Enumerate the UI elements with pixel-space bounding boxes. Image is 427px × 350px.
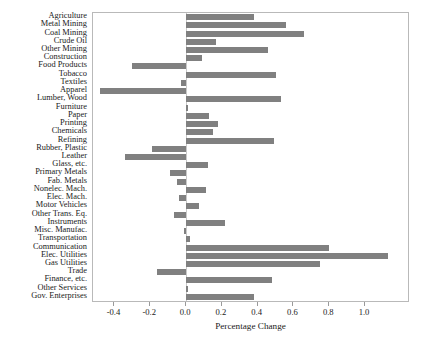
bar [186,236,190,242]
x-axis-tick [257,302,258,306]
bar [186,162,207,168]
bar [186,113,209,119]
x-axis-tick [185,302,186,306]
percentage-change-bar-chart: AgricultureMetal MiningCoal MiningCrude … [0,0,427,350]
bar [186,220,225,226]
category-label: Gov. Enterprises [31,291,87,301]
bar [186,203,199,209]
bar [186,31,304,37]
bar [186,138,274,144]
bar [186,72,275,78]
x-axis-tick [292,302,293,306]
x-axis-tick [364,302,365,306]
bar [132,63,186,69]
x-axis-tick [149,302,150,306]
bar [179,195,186,201]
bar [186,245,329,251]
bar [100,88,186,94]
bar [186,129,213,135]
plot-area [92,12,409,302]
bar [157,269,186,275]
x-axis-tick-label: 0.8 [323,307,334,317]
bar [186,47,268,53]
x-axis-tick-label: 1.0 [359,307,370,317]
x-axis-tick-label: -0.4 [107,307,121,317]
bar [186,22,286,28]
bar-series [93,13,408,301]
bar [177,179,186,185]
bar [186,96,281,102]
bar [186,121,218,127]
x-axis-tick-label: 0.4 [251,307,262,317]
x-axis-tick-label: 0.0 [180,307,191,317]
x-axis-tick [221,302,222,306]
bar [174,212,187,218]
bar [184,228,186,234]
bar [125,154,186,160]
x-axis-tick-label: 0.2 [215,307,226,317]
x-axis-tick [113,302,114,306]
bar [186,55,202,61]
x-axis-tick-label: -0.2 [142,307,156,317]
bar [186,14,254,20]
bar [186,105,188,111]
bar [186,187,206,193]
bar [186,261,320,267]
bar [186,277,272,283]
bar [186,253,388,259]
bar [181,80,186,86]
x-axis-title: Percentage Change [92,321,409,331]
category-axis-labels: AgricultureMetal MiningCoal MiningCrude … [0,12,90,302]
bar [170,170,186,176]
bar [186,294,254,300]
bar [152,146,186,152]
bar [186,39,216,45]
x-axis-tick-label: 0.6 [287,307,298,317]
bar [186,286,188,292]
x-axis-tick [328,302,329,306]
